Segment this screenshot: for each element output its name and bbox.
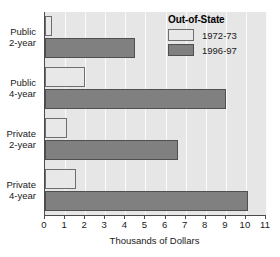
x-axis-title: Thousands of Dollars — [44, 235, 265, 246]
legend-swatch-icon — [168, 29, 194, 41]
bar-private-2-year-1996-97 — [45, 140, 178, 160]
x-tick-label: 10 — [235, 219, 255, 231]
bar-private-4-year-1972-73 — [45, 169, 76, 189]
bar-public-4-year-1972-73 — [45, 67, 85, 87]
legend-item-1972-73: 1972-73 — [168, 29, 266, 41]
category-label-1: Public2-year — [0, 12, 40, 63]
legend-entries: 1972-731996-97 — [168, 29, 266, 56]
category-label-2: Public4-year — [0, 63, 40, 114]
bar-group-3 — [45, 114, 266, 165]
legend-title: Out-of-State — [168, 14, 266, 25]
bar-group-2 — [45, 63, 266, 114]
x-tick-label: 1 — [54, 219, 74, 231]
x-tick-label: 11 — [255, 219, 275, 231]
category-label-line2: 4-year — [9, 88, 36, 99]
legend-item-1996-97: 1996-97 — [168, 44, 266, 56]
legend-swatch-icon — [168, 44, 194, 56]
category-label-3: Private2-year — [0, 114, 40, 165]
x-tick-label: 8 — [195, 219, 215, 231]
legend: Out-of-State 1972-731996-97 — [168, 14, 266, 59]
x-tick-label: 3 — [94, 219, 114, 231]
category-label-line1: Private — [6, 128, 36, 139]
category-label-line2: 2-year — [9, 139, 36, 150]
bar-public-4-year-1996-97 — [45, 89, 226, 109]
legend-label: 1972-73 — [202, 30, 237, 41]
x-tick-label: 5 — [134, 219, 154, 231]
bar-public-2-year-1996-97 — [45, 38, 135, 58]
category-label-line1: Private — [6, 179, 36, 190]
bar-chart: Public2-yearPublic4-yearPrivate2-yearPri… — [0, 0, 280, 257]
bar-group-4 — [45, 164, 266, 215]
category-axis-labels: Public2-yearPublic4-yearPrivate2-yearPri… — [0, 12, 40, 215]
category-label-line1: Public — [10, 26, 36, 37]
legend-label: 1996-97 — [202, 45, 237, 56]
category-label-line1: Public — [10, 77, 36, 88]
x-tick-label: 0 — [34, 219, 54, 231]
category-label-4: Private4-year — [0, 164, 40, 215]
bar-private-2-year-1972-73 — [45, 118, 67, 138]
x-tick-label: 6 — [155, 219, 175, 231]
x-tick-label: 9 — [215, 219, 235, 231]
x-tick-label: 2 — [74, 219, 94, 231]
bar-public-2-year-1972-73 — [45, 16, 52, 36]
category-label-line2: 4-year — [9, 190, 36, 201]
x-axis-tick-labels: 01234567891011 — [44, 219, 265, 233]
x-tick-label: 4 — [114, 219, 134, 231]
gridline — [266, 12, 267, 215]
bar-private-4-year-1996-97 — [45, 191, 248, 211]
x-tick-label: 7 — [175, 219, 195, 231]
category-label-line2: 2-year — [9, 37, 36, 48]
